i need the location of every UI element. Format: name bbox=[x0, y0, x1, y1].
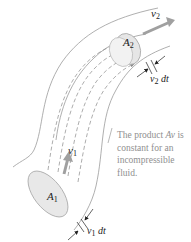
label-v1-dt: v1 dt bbox=[87, 226, 106, 238]
caption-line-3: incompressible bbox=[117, 154, 189, 167]
label-a1: A1 bbox=[47, 191, 58, 204]
caption-line-4: fluid. bbox=[117, 167, 189, 180]
caption: The product Av is constant for an incomp… bbox=[117, 129, 189, 179]
label-v1: v1 bbox=[68, 145, 77, 158]
caption-line-1: The product Av is bbox=[117, 129, 189, 142]
label-a2: A2 bbox=[123, 37, 134, 50]
flow-tube-diagram bbox=[0, 0, 191, 242]
caption-leader bbox=[108, 128, 112, 143]
label-v2-dt: v2 dt bbox=[150, 74, 169, 86]
caption-line-2: constant for an bbox=[117, 142, 189, 155]
label-v2: v2 bbox=[151, 8, 160, 21]
velocity-v2-arrow bbox=[143, 22, 170, 34]
